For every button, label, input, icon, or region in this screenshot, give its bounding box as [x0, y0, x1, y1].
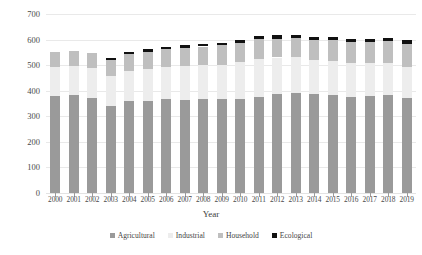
bar-segment-ecological[interactable] — [346, 39, 356, 42]
bar-segment-ecological[interactable] — [383, 38, 393, 41]
bar-segment-industrial[interactable] — [309, 60, 319, 95]
bar-segment-industrial[interactable] — [346, 63, 356, 97]
bar-segment-ecological[interactable] — [365, 39, 375, 42]
bar-segment-household[interactable] — [402, 44, 412, 67]
bar-segment-household[interactable] — [198, 47, 208, 66]
bar-segment-household[interactable] — [383, 41, 393, 63]
bar-segment-household[interactable] — [309, 40, 319, 60]
bar-segment-industrial[interactable] — [291, 57, 301, 93]
bar-group[interactable] — [365, 14, 375, 193]
bar-segment-agricultural[interactable] — [272, 94, 282, 193]
bar-segment-industrial[interactable] — [383, 63, 393, 95]
bar-segment-industrial[interactable] — [198, 65, 208, 99]
bar-group[interactable] — [161, 14, 171, 193]
bar-group[interactable] — [69, 14, 79, 193]
bar-segment-household[interactable] — [87, 53, 97, 69]
bar-segment-household[interactable] — [69, 51, 79, 66]
bar-segment-agricultural[interactable] — [217, 99, 227, 193]
legend-item-ecological[interactable]: Ecological — [272, 232, 312, 240]
bar-segment-ecological[interactable] — [180, 45, 190, 48]
bar-group[interactable] — [402, 14, 412, 193]
bar-segment-agricultural[interactable] — [383, 95, 393, 193]
bar-segment-industrial[interactable] — [365, 63, 375, 95]
bar-segment-household[interactable] — [254, 39, 264, 59]
bar-segment-household[interactable] — [106, 60, 116, 76]
bar-segment-ecological[interactable] — [309, 37, 319, 40]
bar-segment-industrial[interactable] — [124, 71, 134, 101]
bar-segment-industrial[interactable] — [143, 69, 153, 101]
bar-segment-household[interactable] — [124, 54, 134, 71]
bar-segment-agricultural[interactable] — [254, 97, 264, 193]
bar-segment-agricultural[interactable] — [87, 98, 97, 193]
bar-segment-industrial[interactable] — [161, 67, 171, 100]
bar-segment-household[interactable] — [272, 39, 282, 58]
bar-segment-household[interactable] — [180, 48, 190, 66]
bar-segment-ecological[interactable] — [402, 40, 412, 44]
bar-group[interactable] — [50, 14, 60, 193]
bar-segment-industrial[interactable] — [217, 65, 227, 99]
bar-segment-ecological[interactable] — [161, 47, 171, 50]
bar-segment-agricultural[interactable] — [291, 93, 301, 193]
bar-segment-household[interactable] — [235, 43, 245, 63]
legend-item-industrial[interactable]: Industrial — [168, 232, 205, 240]
bar-segment-industrial[interactable] — [235, 62, 245, 98]
bar-group[interactable] — [235, 14, 245, 193]
bar-segment-household[interactable] — [328, 40, 338, 60]
bar-segment-industrial[interactable] — [87, 68, 97, 97]
bar-segment-ecological[interactable] — [143, 49, 153, 51]
bar-segment-agricultural[interactable] — [106, 106, 116, 193]
bar-group[interactable] — [383, 14, 393, 193]
bar-group[interactable] — [309, 14, 319, 193]
bar-group[interactable] — [346, 14, 356, 193]
bar-segment-household[interactable] — [161, 49, 171, 67]
bar-segment-agricultural[interactable] — [143, 101, 153, 193]
bar-segment-ecological[interactable] — [235, 40, 245, 43]
bar-segment-agricultural[interactable] — [161, 99, 171, 193]
bar-group[interactable] — [217, 14, 227, 193]
bar-segment-industrial[interactable] — [272, 58, 282, 94]
bar-segment-ecological[interactable] — [124, 52, 134, 54]
bar-segment-ecological[interactable] — [291, 35, 301, 38]
bar-segment-ecological[interactable] — [217, 43, 227, 46]
bar-segment-agricultural[interactable] — [69, 95, 79, 193]
bar-segment-ecological[interactable] — [254, 36, 264, 39]
bar-segment-ecological[interactable] — [328, 37, 338, 40]
bar-segment-household[interactable] — [365, 42, 375, 63]
bar-segment-industrial[interactable] — [328, 61, 338, 95]
bar-segment-household[interactable] — [143, 52, 153, 69]
bar-segment-agricultural[interactable] — [235, 99, 245, 193]
bar-segment-household[interactable] — [346, 42, 356, 63]
bar-segment-agricultural[interactable] — [328, 95, 338, 193]
bar-segment-industrial[interactable] — [254, 59, 264, 96]
bar-group[interactable] — [328, 14, 338, 193]
bar-segment-agricultural[interactable] — [180, 100, 190, 193]
bar-group[interactable] — [254, 14, 264, 193]
bar-segment-agricultural[interactable] — [124, 101, 134, 193]
bar-group[interactable] — [87, 14, 97, 193]
bar-segment-agricultural[interactable] — [402, 98, 412, 193]
bar-group[interactable] — [180, 14, 190, 193]
bar-group[interactable] — [198, 14, 208, 193]
bar-segment-household[interactable] — [291, 38, 301, 57]
bar-segment-agricultural[interactable] — [365, 96, 375, 193]
bar-segment-ecological[interactable] — [198, 44, 208, 47]
legend-item-household[interactable]: Household — [218, 232, 259, 240]
bar-segment-industrial[interactable] — [50, 67, 60, 96]
bar-segment-agricultural[interactable] — [346, 97, 356, 193]
bar-group[interactable] — [106, 14, 116, 193]
bar-segment-household[interactable] — [217, 45, 227, 64]
bar-segment-agricultural[interactable] — [198, 99, 208, 193]
bar-segment-industrial[interactable] — [106, 76, 116, 106]
bar-segment-industrial[interactable] — [69, 66, 79, 95]
bar-segment-industrial[interactable] — [402, 67, 412, 98]
bar-group[interactable] — [291, 14, 301, 193]
bar-segment-agricultural[interactable] — [50, 96, 60, 193]
bar-segment-industrial[interactable] — [180, 66, 190, 100]
bar-segment-household[interactable] — [50, 52, 60, 67]
bar-segment-ecological[interactable] — [106, 58, 116, 60]
bar-group[interactable] — [143, 14, 153, 193]
bar-segment-agricultural[interactable] — [309, 94, 319, 193]
legend-item-agricultural[interactable]: Agricultural — [110, 232, 155, 240]
bar-group[interactable] — [124, 14, 134, 193]
bar-group[interactable] — [272, 14, 282, 193]
